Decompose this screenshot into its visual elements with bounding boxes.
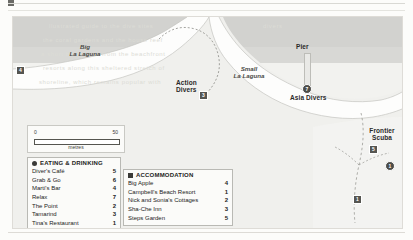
marker-asia-divers[interactable]: 7 xyxy=(302,84,312,94)
legend-entry-number: 2 xyxy=(219,196,228,205)
legend-entry-label: Grab & Go xyxy=(32,176,61,185)
legend-title: EATING & DRINKING xyxy=(40,160,103,166)
map-canvas[interactable]: llustrated guide to the dive sites the c… xyxy=(12,16,403,229)
legend-entry-label: Big Apple xyxy=(128,179,153,188)
page-rule-top xyxy=(8,3,405,4)
legend-entry[interactable]: Grab & Go6 xyxy=(32,176,116,185)
legend-entry[interactable]: Campbell's Beach Resort1 xyxy=(128,188,228,197)
legend-entry[interactable]: Sha-Che Inn3 xyxy=(128,205,228,214)
square-marker-icon xyxy=(128,173,133,178)
legend-entry-list: Diver's Café5 Grab & Go6 Marti's Bar4 Re… xyxy=(28,167,120,229)
legend-entry-number: 5 xyxy=(219,214,228,223)
scale-start-label: 0 xyxy=(34,129,37,135)
ghost-text-line: resorts along this sheltered stretch of xyxy=(43,65,165,71)
marker-action-divers-b[interactable]: 3 xyxy=(199,91,208,100)
legend-entry-label: Diver's Café xyxy=(32,167,65,176)
legend-entry-label: Sha-Che Inn xyxy=(128,205,162,214)
legend-entry[interactable]: Marti's Bar4 xyxy=(32,184,116,193)
legend-entry[interactable]: Diver's Café5 xyxy=(32,167,116,176)
legend-entry-number: 3 xyxy=(219,205,228,214)
ghost-text-line: divers xyxy=(263,23,283,29)
legend-entry-label: Campbell's Beach Resort xyxy=(128,188,196,197)
legend-entry[interactable]: Tamarind3 xyxy=(32,210,116,219)
label-big-la-laguna: Big La Laguna xyxy=(57,43,113,58)
circle-marker-icon xyxy=(32,161,37,166)
legend-accommodation: ACCOMMODATION Big Apple4 Campbell's Beac… xyxy=(123,169,233,226)
legend-entry-number: 2 xyxy=(107,202,116,211)
legend-entry[interactable]: Tina's Restaurant1 xyxy=(32,219,116,228)
legend-entry-label: Nick and Sonia's Cottages xyxy=(128,196,198,205)
ghost-text-line: llustrated guide to the dive sites xyxy=(49,23,153,29)
page-rule-top-secondary xyxy=(8,10,405,11)
legend-eating-and-drinking: EATING & DRINKING Diver's Café5 Grab & G… xyxy=(27,157,121,229)
legend-header: EATING & DRINKING xyxy=(28,158,120,167)
legend-entry-list: Big Apple4 Campbell's Beach Resort1 Nick… xyxy=(124,179,232,225)
marker-lower-right[interactable]: 1 xyxy=(353,195,362,204)
legend-entry-label: Relax xyxy=(32,193,47,202)
scanned-map-page: llustrated guide to the dive sites the c… xyxy=(0,0,413,240)
marker-frontier-scuba-circle[interactable]: 1 xyxy=(385,161,395,171)
legend-entry-number: 7 xyxy=(107,193,116,202)
scale-unit-label: metres xyxy=(28,144,124,150)
legend-entry-number: 1 xyxy=(219,188,228,197)
marker-left-edge[interactable]: 4 xyxy=(16,66,25,75)
page-rule-bottom xyxy=(8,232,405,233)
ghost-text-line: shoreline, which remains popular with xyxy=(39,79,161,85)
legend-entry-label: The Point xyxy=(32,202,58,211)
legend-entry-number: 3 xyxy=(107,210,116,219)
legend-entry-number: 4 xyxy=(107,184,116,193)
legend-title: ACCOMMODATION xyxy=(136,172,193,178)
scale-bar: 0 50 metres xyxy=(27,125,125,153)
label-small-la-laguna: Small La Laguna xyxy=(221,65,277,80)
scale-end-label: 50 xyxy=(112,129,118,135)
label-action-divers: Action Divers xyxy=(176,79,197,94)
legend-entry-number: 1 xyxy=(107,219,116,228)
legend-entry[interactable]: Steps Garden5 xyxy=(128,214,228,223)
legend-header: ACCOMMODATION xyxy=(124,170,232,179)
label-pier: Pier xyxy=(296,43,309,50)
legend-entry-number: 4 xyxy=(219,179,228,188)
marker-frontier-scuba-square[interactable]: 5 xyxy=(369,145,378,154)
label-asia-divers: Asia Divers xyxy=(290,94,327,101)
legend-entry-number: 5 xyxy=(107,167,116,176)
legend-entry[interactable]: Relax7 xyxy=(32,193,116,202)
legend-entry-number: 6 xyxy=(107,176,116,185)
legend-entry-label: Tina's Restaurant xyxy=(32,219,79,228)
legend-entry[interactable]: Nick and Sonia's Cottages2 xyxy=(128,196,228,205)
legend-entry-label: Steps Garden xyxy=(128,214,165,223)
legend-entry[interactable]: The Point2 xyxy=(32,202,116,211)
legend-entry-label: Marti's Bar xyxy=(32,184,60,193)
legend-entry[interactable]: Big Apple4 xyxy=(128,179,228,188)
legend-entry-label: Tamarind xyxy=(32,210,57,219)
label-frontier-scuba: Frontier Scuba xyxy=(365,127,399,142)
